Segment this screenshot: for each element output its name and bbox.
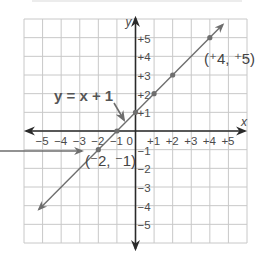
equation-label: y = x + 1 [54, 87, 113, 104]
point-label-neg2-neg1: (⁻2, ⁻1) [85, 152, 136, 169]
y-tick-label: −2 [138, 163, 151, 175]
equation-callout-arrow [114, 103, 124, 120]
x-tick-label: 0 [127, 135, 133, 147]
x-tick-label: −5 [36, 135, 49, 147]
x-tick-label: +2 [166, 135, 179, 147]
x-tick-label: +5 [221, 135, 234, 147]
data-point [114, 128, 119, 133]
y-tick-label: +5 [138, 33, 151, 45]
x-tick-label: −4 [54, 135, 68, 147]
y-axis-label: y [125, 15, 133, 29]
data-point [133, 110, 138, 115]
data-point [151, 91, 156, 96]
coordinate-plane: xy −5−4−3−2−10+1+2+3+4+5+5+4+3+2+1−1−2−3… [0, 0, 273, 258]
annotations: y = x + 1(⁺4, ⁺5)(⁻2, ⁻1) [0, 50, 255, 169]
x-tick-label: +4 [203, 135, 217, 147]
x-tick-label: +3 [184, 135, 197, 147]
y-tick-label: −1 [138, 145, 151, 157]
y-tick-label: +3 [138, 70, 151, 82]
point-label-4-5: (⁺4, ⁺5) [204, 50, 255, 67]
line-y-equals-x-plus-1 [39, 25, 223, 210]
y-tick-label: +4 [138, 51, 152, 63]
y-tick-label: −5 [138, 219, 151, 231]
y-tick-label: −3 [138, 182, 151, 194]
data-point [170, 72, 175, 77]
graph-line [39, 25, 223, 210]
x-tick-label: −3 [73, 135, 86, 147]
y-tick-label: −4 [138, 201, 152, 213]
x-axis-label: x [240, 115, 248, 129]
data-point [207, 35, 212, 40]
